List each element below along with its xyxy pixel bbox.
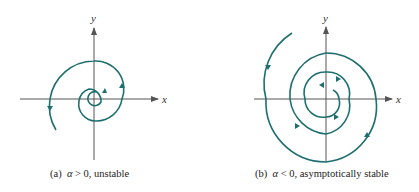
caption-text: > 0, unstable — [75, 168, 129, 179]
caption-prefix: (b) — [255, 168, 267, 179]
spiral-trajectory — [49, 61, 123, 130]
arrow-icon — [102, 88, 107, 93]
caption-text: < 0, asymptotically stable — [281, 168, 389, 179]
alpha-symbol: α — [67, 168, 73, 179]
spiral-trajectory — [264, 33, 376, 162]
direction-arrows — [265, 65, 370, 137]
caption-b: (b) α < 0, asymptotically stable — [255, 168, 389, 179]
arrow-icon — [336, 76, 341, 82]
phase-portrait-figure: x y x y — [0, 0, 419, 192]
panel-a — [20, 28, 158, 160]
direction-arrows — [47, 83, 125, 111]
panel-b — [254, 27, 392, 162]
y-axis-label: y — [322, 12, 328, 24]
arrow-icon — [319, 82, 324, 88]
caption-prefix: (a) — [50, 168, 62, 179]
arrow-icon — [295, 123, 300, 129]
x-axis-label: x — [395, 93, 401, 105]
caption-a: (a) α > 0, unstable — [50, 168, 129, 179]
arrow-icon — [47, 106, 53, 111]
alpha-symbol: α — [273, 168, 279, 179]
arrow-icon — [334, 114, 339, 120]
x-axis-label: x — [161, 93, 167, 105]
y-axis-label: y — [90, 12, 96, 24]
